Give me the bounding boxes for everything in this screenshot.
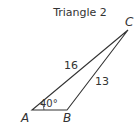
triangle-diagram: Triangle 2 40° 16 13 A B C [0,0,138,138]
vertex-label-c: C [125,15,134,29]
side-label-ac: 16 [64,59,78,72]
side-label-bc: 13 [95,75,109,88]
vertex-label-b: B [63,111,71,125]
vertex-label-a: A [20,111,29,125]
angle-label-a: 40° [40,98,58,109]
diagram-title: Triangle 2 [52,6,107,19]
